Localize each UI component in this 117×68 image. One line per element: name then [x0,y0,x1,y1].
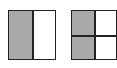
shaded-top-left-quarter [72,11,94,35]
quarters-square [71,10,117,60]
shaded-half [9,11,32,59]
vertical-divider [32,11,34,59]
horizontal-divider [72,35,116,37]
shaded-bottom-left-quarter [72,36,94,59]
halves-square [8,10,56,60]
